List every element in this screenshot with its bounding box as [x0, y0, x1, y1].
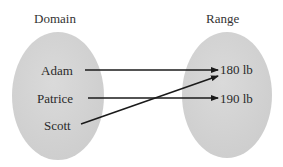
range-item-190lb: 190 lb	[220, 92, 253, 105]
domain-item-adam: Adam	[41, 64, 73, 77]
mapping-diagram: Domain Range Adam Patrice Scott 180 lb 1…	[0, 0, 283, 167]
domain-item-patrice: Patrice	[37, 92, 73, 105]
range-item-180lb: 180 lb	[220, 63, 253, 76]
domain-title: Domain	[34, 12, 76, 25]
range-title: Range	[206, 12, 239, 25]
domain-item-scott: Scott	[44, 119, 71, 132]
